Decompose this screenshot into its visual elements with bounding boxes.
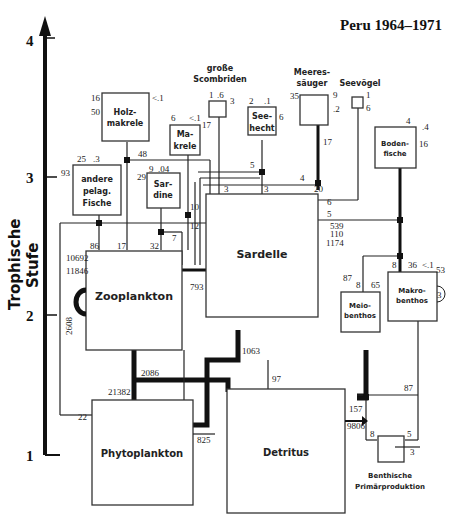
svg-text:Meio-: Meio-: [349, 302, 371, 310]
svg-text:3: 3: [437, 290, 442, 300]
svg-text:Makro-: Makro-: [398, 287, 426, 295]
svg-text:22: 22: [78, 412, 87, 422]
svg-text:<.1: <.1: [422, 260, 434, 270]
svg-text:7: 7: [172, 233, 177, 243]
svg-text:32: 32: [150, 241, 159, 251]
svg-text:87: 87: [343, 273, 353, 283]
compartment-grosse-scombriden: große Scombriden 1 .6 3: [193, 64, 247, 117]
svg-text:benthos: benthos: [396, 297, 428, 305]
svg-text:1174: 1174: [326, 238, 344, 248]
svg-text:20: 20: [314, 184, 324, 194]
svg-text:17: 17: [202, 120, 212, 130]
svg-text:<.1: <.1: [152, 93, 164, 103]
svg-text:9: 9: [333, 90, 338, 100]
svg-text:hecht: hecht: [249, 124, 275, 133]
svg-text:48: 48: [138, 149, 148, 159]
svg-text:4: 4: [406, 116, 411, 126]
svg-text:36: 36: [408, 260, 418, 270]
svg-text:6: 6: [279, 112, 284, 122]
svg-text:benthos: benthos: [344, 312, 376, 320]
svg-text:3: 3: [224, 184, 229, 194]
compartment-sardine: Sar- dine 9 .04 29: [137, 164, 180, 208]
compartment-andere-pelag-fische: andere pelag. Fische 25 .3 93: [61, 154, 121, 215]
svg-text:10692: 10692: [66, 253, 89, 263]
svg-text:makrele: makrele: [107, 119, 144, 128]
svg-text:97: 97: [272, 374, 282, 384]
svg-text:Detritus: Detritus: [263, 447, 309, 458]
svg-text:fische: fische: [383, 150, 406, 158]
compartment-sardelle: Sardelle 539 110 1174: [206, 194, 344, 317]
svg-text:793: 793: [190, 282, 204, 292]
svg-text:8: 8: [356, 280, 361, 290]
loop-icon: [76, 290, 86, 314]
svg-text:1063: 1063: [242, 346, 261, 356]
svg-text:87: 87: [404, 383, 414, 393]
compartment-makrele: Ma- krele 6 <.1 17: [170, 113, 212, 155]
svg-text:Fische: Fische: [83, 199, 112, 208]
svg-text:pelag.: pelag.: [83, 187, 111, 196]
food-web-diagram: Peru 1964–1971 1 2 3 4 Trophische Stufe: [0, 0, 456, 524]
svg-text:93: 93: [61, 168, 71, 178]
svg-text:65: 65: [371, 280, 381, 290]
axis-label-2: Stufe: [24, 243, 42, 288]
svg-text:5: 5: [327, 209, 332, 219]
svg-text:krele: krele: [174, 142, 197, 151]
svg-text:.1: .1: [264, 96, 271, 106]
svg-text:2086: 2086: [141, 368, 160, 378]
svg-text:2608: 2608: [64, 317, 74, 336]
compartment-seevoegel: Seevögel 1 6: [339, 79, 380, 113]
axis-label-1: Trophische: [6, 218, 24, 310]
svg-text:25: 25: [77, 154, 87, 164]
svg-text:andere: andere: [81, 175, 113, 184]
tick-4: 4: [26, 33, 34, 49]
svg-text:35: 35: [290, 91, 300, 101]
svg-text:dine: dine: [153, 191, 173, 200]
svg-text:6: 6: [327, 197, 332, 207]
svg-text:5: 5: [250, 160, 255, 170]
svg-text:29: 29: [137, 172, 147, 182]
svg-text:1: 1: [366, 90, 371, 100]
svg-text:3: 3: [230, 96, 235, 106]
svg-text:.04: .04: [158, 164, 170, 174]
svg-text:Scombriden: Scombriden: [193, 75, 247, 84]
compartment-bodenfische: Boden- fische 4 .4 16: [375, 116, 429, 168]
svg-text:17: 17: [117, 241, 127, 251]
svg-text:8: 8: [370, 429, 375, 439]
compartment-detritus: Detritus 9806: [227, 389, 368, 513]
svg-text:6: 6: [366, 103, 371, 113]
svg-text:10: 10: [190, 202, 200, 212]
svg-text:Holz-: Holz-: [114, 108, 137, 117]
axis-arrow-icon: [39, 16, 51, 36]
svg-text:See-: See-: [252, 112, 272, 121]
svg-text:86: 86: [90, 241, 100, 251]
svg-text:16: 16: [91, 93, 101, 103]
svg-text:157: 157: [349, 404, 363, 414]
svg-text:Zooplankton: Zooplankton: [95, 290, 173, 303]
svg-text:11846: 11846: [66, 266, 89, 276]
svg-text:21382: 21382: [108, 387, 131, 397]
svg-text:2: 2: [249, 96, 254, 106]
svg-text:Ma-: Ma-: [177, 130, 194, 139]
svg-text:Sardelle: Sardelle: [236, 248, 287, 261]
svg-text:1: 1: [209, 90, 214, 100]
svg-text:16: 16: [419, 139, 429, 149]
compartment-seehecht: See- hecht 2 .1 6: [248, 96, 284, 135]
svg-text:9: 9: [149, 164, 154, 174]
compartment-phytoplankton: Phytoplankton 825: [92, 400, 215, 505]
svg-text:<.1: <.1: [189, 113, 201, 123]
svg-text:Boden-: Boden-: [381, 140, 409, 148]
compartment-meiobenthos: Meio- benthos 87 8 65: [341, 273, 381, 332]
trophic-axis: 1 2 3 4 Trophische Stufe: [6, 16, 60, 464]
svg-text:6: 6: [171, 113, 176, 123]
svg-text:53: 53: [436, 265, 446, 275]
svg-text:.2: .2: [333, 104, 340, 114]
svg-text:4: 4: [300, 173, 305, 183]
tick-1: 1: [26, 448, 34, 464]
svg-text:säuger: säuger: [297, 79, 328, 88]
diagram-title: Peru 1964–1971: [340, 17, 442, 33]
svg-text:Primärproduktion: Primärproduktion: [355, 483, 425, 491]
svg-text:.4: .4: [422, 122, 429, 132]
compartment-makrobenthos: Makro- benthos 8 36 <.1 53 3: [388, 260, 446, 321]
svg-text:.3: .3: [93, 154, 100, 164]
svg-text:.6: .6: [217, 90, 224, 100]
